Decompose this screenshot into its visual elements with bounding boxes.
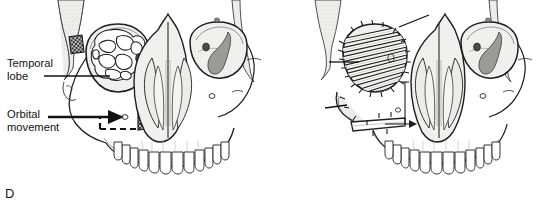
onlay-bone-grafts [336, 92, 405, 136]
bone-graft-leader [399, 15, 429, 27]
panel-e-illustration [277, 0, 554, 207]
right-infraorbital-foramen [209, 94, 215, 99]
panel-d-illustration [0, 0, 277, 207]
right-infraorbital-foramen [480, 94, 486, 99]
left-orbit-reconstructed [337, 20, 411, 106]
label-orbital-movement: Orbital movement [7, 108, 59, 134]
right-orbit-normal [461, 18, 518, 78]
bracket-foramen [395, 108, 400, 112]
nasal-aperture [411, 14, 465, 142]
orbital-movement-arrow [48, 110, 124, 124]
temporal-hatch-block [69, 35, 84, 53]
panel-e: Bone graft Split rib grafts Bone grafts … [277, 0, 554, 207]
figure-root: Temporal lobe Orbital movement D [0, 0, 554, 207]
label-temporal-lobe: Temporal lobe [7, 57, 53, 83]
panel-letter-d: D [5, 186, 15, 201]
panel-d: Temporal lobe Orbital movement D [0, 0, 277, 207]
